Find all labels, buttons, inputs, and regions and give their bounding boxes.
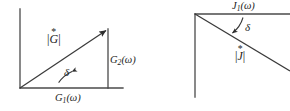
left-loss-modulus-label: G2(ω) xyxy=(110,55,136,67)
left-modulus-symbol: *G xyxy=(49,33,58,45)
star-icon: * xyxy=(238,44,243,54)
vector-diagram-svg xyxy=(0,0,290,111)
right-storage-compliance-label: J1(ω) xyxy=(232,1,255,13)
right-angle-arc xyxy=(233,18,244,34)
right-phase-angle-label: δ xyxy=(245,22,250,33)
left-loss-argument: (ω) xyxy=(121,54,135,65)
right-modulus-bar-close: | xyxy=(243,49,245,63)
star-icon: * xyxy=(51,27,56,37)
left-modulus-bar-close: | xyxy=(58,32,60,46)
right-modulus-symbol: *J xyxy=(237,50,242,62)
left-diagram-group xyxy=(20,9,123,88)
left-phase-angle-label: δ xyxy=(64,67,69,78)
left-modulus-label: |*G| xyxy=(47,33,61,45)
figure-root: |*G| δ G1(ω) G2(ω) J1(ω) δ |*J| xyxy=(0,0,290,111)
left-storage-argument: (ω) xyxy=(66,92,80,103)
right-storage-argument: (ω) xyxy=(240,0,254,11)
left-storage-base: G xyxy=(55,92,63,103)
left-storage-modulus-label: G1(ω) xyxy=(55,93,81,105)
left-loss-base: G xyxy=(110,54,118,65)
right-modulus-label: |*J| xyxy=(235,50,245,62)
left-resultant-vector xyxy=(20,31,106,89)
